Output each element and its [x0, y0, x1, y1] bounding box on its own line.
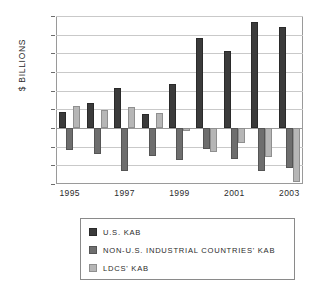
bar [251, 22, 258, 128]
bar [73, 106, 80, 128]
bar [203, 128, 210, 149]
y-tick-mark [51, 147, 55, 148]
bar [101, 110, 108, 128]
bar [238, 128, 245, 143]
x-tick-label: 1995 [47, 188, 93, 198]
bar [142, 114, 149, 128]
bar [210, 128, 217, 152]
bar-group [138, 16, 165, 184]
y-tick-mark [51, 184, 55, 185]
legend-swatch-icon [89, 228, 97, 236]
bar-group [111, 16, 138, 184]
legend-item-us-kab: U.S. KAB [89, 226, 141, 238]
x-tick-label: 1997 [102, 188, 148, 198]
bar [224, 51, 231, 128]
y-tick-mark [51, 35, 55, 36]
y-tick-mark [51, 165, 55, 166]
x-tick-label: 2003 [266, 188, 312, 198]
y-tick-mark [51, 128, 55, 129]
bar [94, 128, 101, 154]
x-tick-label: 1999 [157, 188, 203, 198]
bar [87, 103, 94, 128]
bar [128, 107, 135, 128]
y-tick-mark [51, 109, 55, 110]
bar [66, 128, 73, 150]
bar [59, 112, 66, 128]
y-tick-mark [51, 72, 55, 73]
legend-item-ldcs-kab: LDCS' KAB [89, 262, 149, 274]
bar [265, 128, 272, 157]
bar [176, 128, 183, 160]
bar [286, 128, 293, 168]
x-tick-label: 2001 [211, 188, 257, 198]
bar [121, 128, 128, 171]
y-tick-mark [51, 16, 55, 17]
legend-swatch-icon [89, 264, 97, 272]
bar [293, 128, 300, 182]
bar [279, 27, 286, 128]
bar-group [56, 16, 83, 184]
bar [183, 128, 190, 131]
y-tick-mark [51, 53, 55, 54]
legend-label: NON-U.S. INDUSTRIAL COUNTRIES' KAB [103, 246, 275, 255]
bar [196, 38, 203, 128]
bar-chart-figure: $ BILLIONS 6005004003002001000-100-200-3… [0, 0, 321, 290]
legend-label: LDCS' KAB [103, 264, 149, 273]
chart-legend: U.S. KAB NON-U.S. INDUSTRIAL COUNTRIES' … [80, 218, 295, 280]
plot-area: 6005004003002001000-100-200-300 19951997… [56, 16, 303, 184]
bar [258, 128, 265, 171]
bar-group [248, 16, 275, 184]
bar [114, 88, 121, 128]
bar-group [276, 16, 303, 184]
bar-group [221, 16, 248, 184]
legend-swatch-icon [89, 246, 97, 254]
legend-label: U.S. KAB [103, 228, 141, 237]
bar-group [83, 16, 110, 184]
bar-group [166, 16, 193, 184]
legend-item-non-us-industrial-kab: NON-U.S. INDUSTRIAL COUNTRIES' KAB [89, 244, 275, 256]
bar [231, 128, 238, 159]
bar [169, 84, 176, 128]
bar-group [193, 16, 220, 184]
y-tick-mark [51, 91, 55, 92]
bar [156, 113, 163, 128]
bar [149, 128, 156, 156]
y-axis-title: $ BILLIONS [17, 5, 27, 125]
